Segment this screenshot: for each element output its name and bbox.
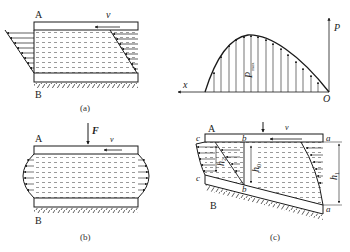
fluid-film [34, 30, 138, 73]
caption-b: (b) [80, 232, 91, 242]
ground-hatch [34, 208, 138, 213]
section-b-bottom: b [242, 184, 247, 194]
section-a-top: a [326, 133, 331, 143]
panel-a: v A B (a) [5, 9, 138, 113]
svg-text:2: 2 [221, 158, 227, 161]
plate-b-label: B [35, 89, 42, 100]
velocity-label: v [106, 9, 111, 20]
hydrodynamic-lubrication-figure: v A B (a) P max P [0, 0, 350, 252]
plate-a-label: A [35, 9, 43, 20]
left-outflow-profile [23, 154, 34, 198]
upper-plate-a [34, 22, 138, 30]
right-outflow-profile [138, 154, 149, 198]
svg-text:max: max [250, 62, 255, 71]
svg-text:0: 0 [256, 164, 262, 167]
svg-text:1: 1 [334, 172, 340, 175]
section-c-top: c [196, 133, 200, 143]
upper-plate-a [205, 134, 323, 142]
x-axis-label: x [182, 79, 188, 90]
pressure-distribution: P max P x O [178, 18, 340, 104]
plate-b-label: B [210, 200, 217, 211]
fluid-film [34, 154, 138, 198]
origin-label: O [323, 93, 330, 104]
section-b-top: b [242, 133, 247, 143]
svg-text:P: P [243, 72, 254, 79]
panel-c: h 2 h 0 h 1 v A B c b a c b a (c) [196, 122, 342, 242]
h1-label: h 1 [328, 172, 340, 180]
p-axis-label: P [333, 22, 340, 33]
lower-plate-b [34, 198, 138, 207]
plate-b-label: B [35, 215, 42, 226]
velocity-label: v [110, 135, 114, 144]
caption-a: (a) [80, 103, 90, 113]
section-a-bottom: a [326, 204, 331, 214]
plate-a-label: A [208, 123, 216, 134]
velocity-label: v [285, 123, 289, 132]
pressure-curve [205, 35, 329, 92]
caption-c: (c) [270, 232, 280, 242]
panel-b: F v A B (b) [23, 123, 149, 242]
inlet-velocity-profile [5, 30, 34, 73]
upper-plate-a [34, 146, 138, 154]
ground-hatch [34, 83, 138, 88]
pmax-label: P max [243, 62, 255, 79]
plate-a-label: A [35, 133, 43, 144]
lower-plate-b [34, 73, 138, 82]
force-label: F [91, 125, 99, 136]
section-c-bottom: c [196, 173, 200, 183]
